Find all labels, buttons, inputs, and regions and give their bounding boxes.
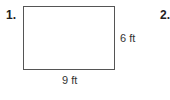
width-label: 9 ft	[62, 75, 77, 86]
rectangle-figure	[23, 6, 115, 70]
height-label: 6 ft	[120, 33, 135, 44]
problem-number: 1.	[6, 9, 16, 21]
problem-number: 2.	[160, 9, 170, 21]
